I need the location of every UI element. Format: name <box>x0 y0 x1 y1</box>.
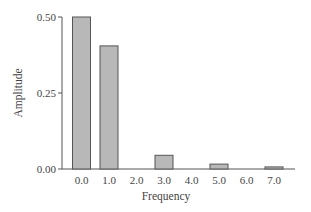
x-tick-label: 2.0 <box>130 174 144 186</box>
bar-chart: 0.50 0.25 0.00 Amplitude Frequency 0.01.… <box>0 0 311 212</box>
x-tick-labels: 0.01.02.03.04.05.06.07.0 <box>75 174 282 186</box>
x-tick-label: 6.0 <box>240 174 254 186</box>
x-tick-label: 7.0 <box>267 174 281 186</box>
x-axis: Frequency <box>62 169 295 203</box>
y-axis-title: Amplitude <box>12 68 25 117</box>
y-tick-label: 0.25 <box>37 87 57 99</box>
y-axis: 0.50 0.25 0.00 Amplitude <box>12 11 62 175</box>
bar <box>73 17 91 169</box>
y-tick-label: 0.00 <box>37 163 57 175</box>
x-axis-title: Frequency <box>142 190 191 203</box>
bar <box>265 167 283 169</box>
bar <box>210 164 228 169</box>
bars <box>73 17 284 169</box>
x-tick-label: 3.0 <box>157 174 171 186</box>
bar <box>100 46 118 169</box>
y-tick-label: 0.50 <box>37 11 57 23</box>
bar <box>155 155 173 169</box>
x-tick-label: 1.0 <box>102 174 116 186</box>
x-tick-label: 4.0 <box>185 174 199 186</box>
x-tick-label: 0.0 <box>75 174 89 186</box>
x-tick-label: 5.0 <box>212 174 226 186</box>
